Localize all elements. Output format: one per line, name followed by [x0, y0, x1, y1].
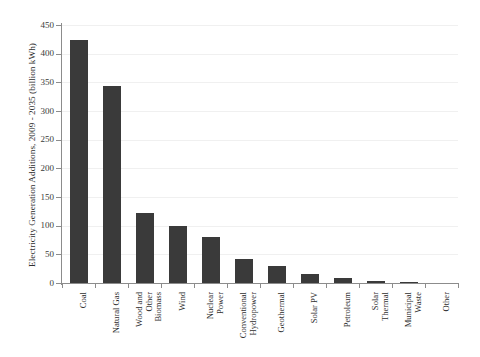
x-axis-tick-mark	[293, 283, 294, 288]
gridline	[62, 82, 458, 83]
y-axis-tick-mark	[56, 111, 61, 112]
x-axis-tick-mark	[227, 283, 228, 288]
y-axis-tick-label: 50	[2, 250, 54, 259]
gridline	[62, 140, 458, 141]
x-axis-tick-mark	[326, 283, 327, 288]
x-axis-tick-label-solar-pv: Solar PV	[310, 292, 324, 357]
x-axis-tick-label-line: Solar	[371, 292, 381, 357]
gridline	[62, 226, 458, 227]
x-axis-tick-label-line: Hydropower	[248, 292, 258, 357]
x-axis-tick-label-line: Thermal	[380, 292, 390, 357]
x-axis-tick-label-line: Natural Gas	[112, 292, 122, 357]
x-axis-tick-label-line: Coal	[79, 292, 89, 357]
bar-wind[interactable]	[169, 226, 187, 283]
bar-geothermal[interactable]	[268, 266, 286, 283]
x-axis-tick-label-other: Other	[442, 292, 456, 357]
y-axis-tick-label: 100	[2, 221, 54, 230]
y-axis-tick-mark	[56, 197, 61, 198]
y-axis-tick-label: 400	[2, 49, 54, 58]
bar-municipal-waste[interactable]	[400, 282, 418, 283]
y-axis-tick-label: 150	[2, 193, 54, 202]
bar-solar-pv[interactable]	[301, 274, 319, 283]
gridline	[62, 168, 458, 169]
x-axis-tick-mark	[359, 283, 360, 288]
bar-natural-gas[interactable]	[103, 86, 121, 283]
x-axis-tick-label-line: Biomass	[154, 292, 164, 357]
bar-petroleum[interactable]	[334, 278, 352, 283]
gridline	[62, 54, 458, 55]
x-axis-tick-label-line: Power	[215, 292, 225, 357]
bar-wood-and-other-biomass[interactable]	[136, 213, 154, 283]
x-axis-tick-label-municipal-waste: MunicipalWaste	[404, 292, 418, 357]
gridline	[62, 111, 458, 112]
bar-nuclear-power[interactable]	[202, 237, 220, 283]
y-axis-tick-mark	[56, 254, 61, 255]
x-axis-tick-mark	[458, 283, 459, 288]
y-axis-tick-label: 250	[2, 135, 54, 144]
x-axis-tick-label-wood-and-other-biomass: Wood andOtherBiomass	[135, 292, 149, 357]
y-axis-tick-mark	[56, 140, 61, 141]
y-axis-tick-mark	[56, 82, 61, 83]
x-axis-tick-label-nuclear-power: NuclearPower	[206, 292, 220, 357]
x-axis-tick-label-coal: Coal	[79, 292, 93, 357]
gridline	[62, 254, 458, 255]
x-axis-tick-mark	[425, 283, 426, 288]
x-axis-tick-label-natural-gas: Natural Gas	[112, 292, 126, 357]
x-axis-tick-label-geothermal: Geothermal	[277, 292, 291, 357]
x-axis-tick-label-solar-thermal: SolarThermal	[371, 292, 385, 357]
x-axis-tick-mark	[161, 283, 162, 288]
y-axis-tick-label: 350	[2, 78, 54, 87]
x-axis-tick-mark	[194, 283, 195, 288]
y-axis-tick-labels: 050100150200250300350400450	[0, 0, 54, 357]
x-axis-tick-label-line: Other	[442, 292, 452, 357]
x-axis-tick-label-line: Conventional	[239, 292, 249, 357]
x-axis-tick-label-line: Waste	[413, 292, 423, 357]
plot-area	[62, 25, 458, 283]
x-axis-tick-mark	[95, 283, 96, 288]
x-axis-tick-label-line: Solar PV	[310, 292, 320, 357]
y-axis-tick-mark	[56, 226, 61, 227]
y-axis-tick-mark	[56, 25, 61, 26]
x-axis-tick-label-petroleum: Petroleum	[343, 292, 357, 357]
bar-coal[interactable]	[70, 40, 88, 283]
x-axis-tick-mark	[392, 283, 393, 288]
y-axis-tick-mark	[56, 283, 61, 284]
bar-solar-thermal[interactable]	[367, 281, 385, 283]
gridline	[62, 197, 458, 198]
y-axis-tick-label: 200	[2, 164, 54, 173]
gridline	[62, 25, 458, 26]
x-axis-tick-label-line: Municipal	[404, 292, 414, 357]
bar-chart-figure: Electricity Generation Additions, 2009 -…	[0, 0, 480, 357]
x-axis-tick-label-line: Wind	[178, 292, 188, 357]
x-axis-tick-label-line: Petroleum	[343, 292, 353, 357]
x-axis-tick-label-conventional-hydropower: ConventionalHydropower	[239, 292, 253, 357]
y-axis-tick-mark	[56, 54, 61, 55]
y-axis-tick-label: 300	[2, 107, 54, 116]
bar-conventional-hydropower[interactable]	[235, 259, 253, 283]
y-axis-tick-mark	[56, 168, 61, 169]
x-axis-tick-mark	[62, 283, 63, 288]
x-axis-tick-label-wind: Wind	[178, 292, 192, 357]
y-axis-tick-label: 450	[2, 21, 54, 30]
x-axis-tick-mark	[260, 283, 261, 288]
x-axis-tick-label-line: Geothermal	[277, 292, 287, 357]
x-axis-tick-mark	[128, 283, 129, 288]
x-axis-tick-label-line: Nuclear	[206, 292, 216, 357]
y-axis-tick-label: 0	[2, 279, 54, 288]
